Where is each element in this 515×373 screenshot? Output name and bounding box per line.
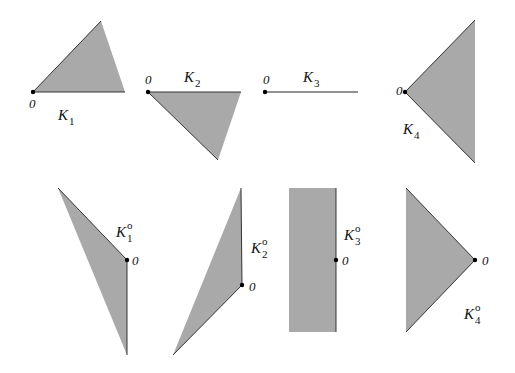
origin-dot [263, 90, 267, 94]
origin-label: 0 [342, 253, 349, 268]
cones-row: 0K10K20K30K4 [29, 20, 475, 163]
region-K3polar [289, 188, 336, 332]
origin-label: 0 [263, 72, 270, 87]
cone-subscript: 2 [262, 248, 268, 260]
figure-K2: 0K2 [145, 69, 241, 160]
origin-dot [334, 258, 338, 262]
region-K1polar [58, 188, 127, 355]
figure-K4polar: 0K4o [406, 188, 489, 332]
cones-and-polars-diagram: 0K10K20K30K4 0K1o0K2o0K3o0K4o [0, 0, 515, 373]
figure-K3polar: 0K3o [289, 188, 361, 332]
cone-subscript: 4 [475, 314, 481, 326]
cone-name-label: K [57, 107, 69, 123]
cone-name-label: K [183, 69, 195, 85]
cone-subscript: 3 [314, 77, 320, 89]
region-K2polar [173, 188, 242, 355]
polar-superscript: o [475, 301, 481, 313]
figure-K1: 0K1 [29, 21, 125, 127]
cone-name-label: K [343, 227, 355, 243]
polar-superscript: o [262, 235, 268, 247]
polar-superscript: o [355, 222, 361, 234]
region-K4 [405, 20, 475, 163]
cone-subscript: 3 [355, 235, 361, 247]
cone-name-label: K [115, 224, 127, 240]
cone-subscript: 1 [69, 115, 75, 127]
origin-label: 0 [132, 253, 139, 268]
origin-dot [473, 258, 477, 262]
cone-name-label: K [302, 69, 314, 85]
figure-K3: 0K3 [263, 69, 358, 94]
cone-subscript: 2 [195, 77, 201, 89]
origin-dot [31, 90, 35, 94]
region-K2 [148, 92, 241, 160]
cone-subscript: 4 [414, 129, 420, 141]
cone-name-label: K [463, 306, 475, 322]
origin-dot [146, 90, 150, 94]
origin-label: 0 [145, 72, 152, 87]
region-K1 [33, 21, 125, 92]
origin-label: 0 [482, 253, 489, 268]
origin-dot [240, 283, 244, 287]
polar-superscript: o [127, 219, 133, 231]
origin-label: 0 [396, 83, 403, 98]
cone-name-label: K [402, 121, 414, 137]
cone-name-label: K [250, 240, 262, 256]
origin-label: 0 [249, 279, 256, 294]
origin-label: 0 [29, 96, 36, 111]
cone-subscript: 1 [127, 232, 133, 244]
origin-dot [403, 90, 407, 94]
origin-dot [125, 258, 129, 262]
figure-K1polar: 0K1o [58, 188, 139, 355]
figure-K2polar: 0K2o [173, 188, 268, 355]
polar-cones-row: 0K1o0K2o0K3o0K4o [58, 188, 489, 355]
figure-K4: 0K4 [396, 20, 475, 163]
